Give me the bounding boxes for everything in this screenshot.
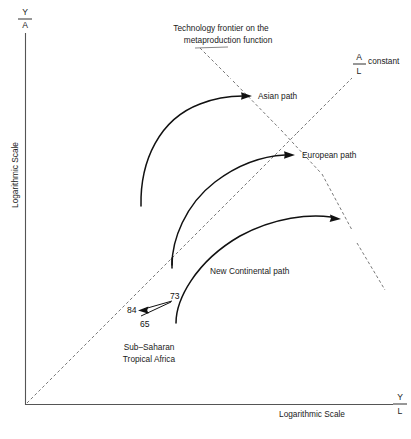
x-axis-numerator: Y [397,392,403,402]
x-axis-denominator: L [398,406,403,416]
y-axis-symbol: Y A [18,7,32,30]
chart-canvas: Y A Logarithmic Scale Logarithmic Scale … [0,0,411,439]
chart-figure: Y A Logarithmic Scale Logarithmic Scale … [0,0,411,439]
y-axis-scale-label: Logarithmic Scale [10,142,20,208]
al-constant-suffix: constant [368,56,400,66]
frontier-label-line-2: metaproduction function [184,35,273,45]
sub-saharan-line-1: Sub–Saharan [124,342,175,352]
technology-frontier-line [200,48,385,290]
data-label-65: 65 [140,319,150,329]
data-label-84: 84 [127,305,137,315]
frontier-segment-1 [200,48,231,79]
technology-frontier-label: Technology frontier on the metaproductio… [173,23,272,45]
new-continental-path-arrowhead [330,215,341,222]
european-path-label: European path [302,150,357,160]
y-axis-denominator: A [22,20,28,30]
frontier-label-leader [195,47,228,48]
data-label-73: 73 [170,291,180,301]
frontier-segment-5 [357,243,385,290]
european-path-arrowhead [284,151,295,159]
asian-path-arrowhead [241,92,252,100]
european-path-curve [172,155,285,265]
asian-path-label: Asian path [258,91,298,101]
al-constant-label-leader [297,78,352,133]
sub-saharan-line-2: Tropical Africa [123,354,176,364]
frontier-segment-4 [322,174,352,230]
new-continental-path-label: New Continental path [210,266,290,276]
frontier-label-line-1: Technology frontier on the [173,23,269,33]
asian-path-curve [141,96,243,206]
frontier-segment-2 [233,81,279,128]
x-axis-scale-label: Logarithmic Scale [279,409,345,419]
al-constant-numerator: A [356,52,362,62]
x-axis-symbol: Y L [393,392,407,416]
sub-saharan-point-connectors [138,301,172,316]
al-constant-label: A L constant [353,52,400,76]
sub-saharan-label: Sub–Saharan Tropical Africa [123,342,176,364]
y-axis-numerator: Y [22,7,28,17]
al-constant-denominator: L [357,66,362,76]
